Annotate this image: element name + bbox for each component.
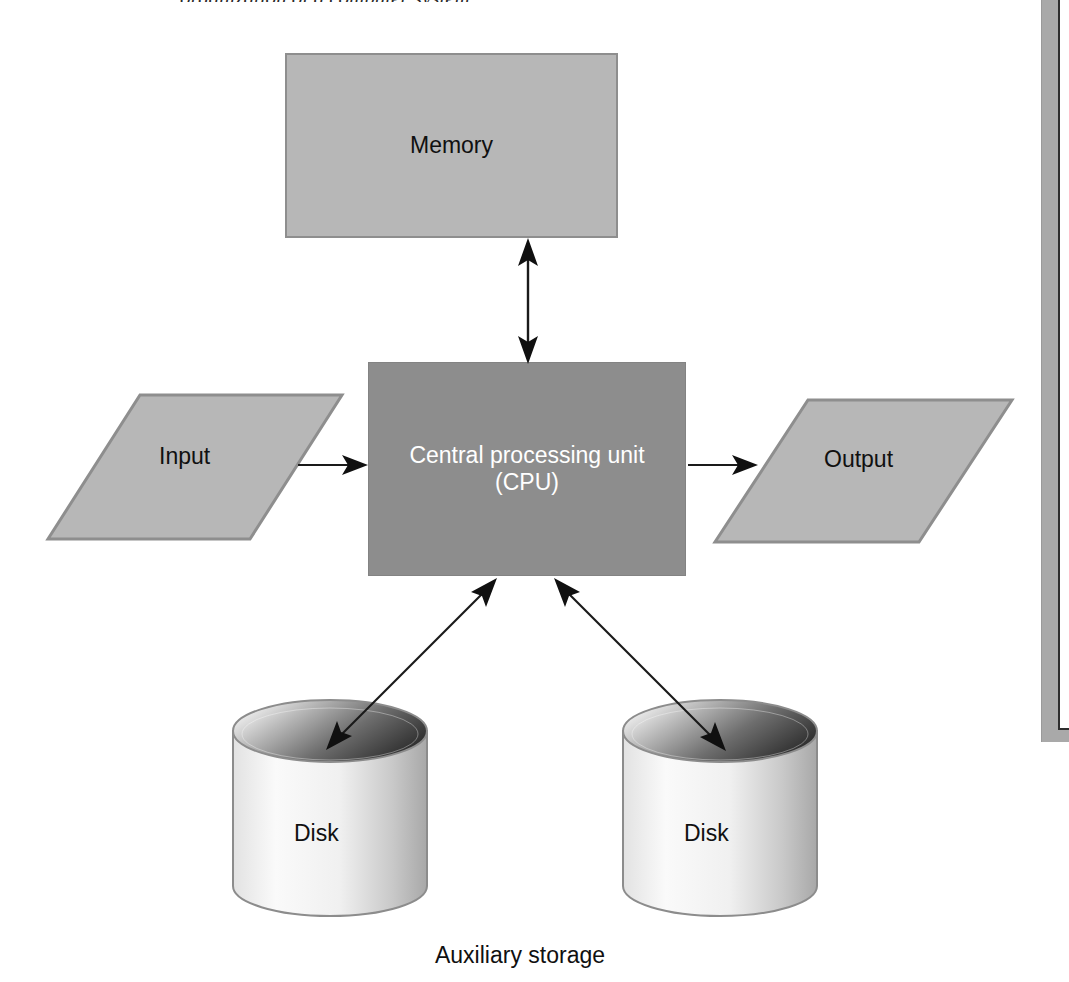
node-cpu-label: Central processing unit (CPU) xyxy=(409,442,644,496)
diagram-canvas: organization of a computer system Memory… xyxy=(0,0,1069,982)
node-cpu-label-line1: Central processing unit xyxy=(409,442,644,468)
node-cpu-label-line2: (CPU) xyxy=(495,469,559,495)
node-input-label: Input xyxy=(159,443,210,470)
cut-off-heading: organization of a computer system xyxy=(180,0,820,2)
node-input: Input xyxy=(44,391,346,543)
node-memory: Memory xyxy=(285,53,618,238)
caption-auxiliary-storage: Auxiliary storage xyxy=(0,942,1040,969)
node-disk-left-label: Disk xyxy=(294,820,339,847)
node-output-label: Output xyxy=(824,446,893,473)
node-cpu: Central processing unit (CPU) xyxy=(368,362,686,576)
node-disk-right: Disk xyxy=(618,694,823,926)
node-memory-label: Memory xyxy=(410,132,493,159)
node-disk-left: Disk xyxy=(228,694,433,926)
node-disk-right-label: Disk xyxy=(684,820,729,847)
adjacent-frame-inner-edge xyxy=(1058,0,1069,730)
edge-memory-cpu xyxy=(518,238,538,364)
node-output: Output xyxy=(711,396,1016,546)
